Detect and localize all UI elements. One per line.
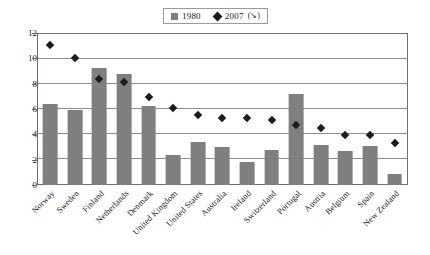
x-axis-label-slot: Australia — [210, 186, 235, 254]
bar-1980 — [215, 147, 230, 185]
bar-1980 — [68, 110, 83, 186]
x-axis-label-slot: Switzerland — [259, 186, 284, 254]
bar-1980 — [92, 68, 107, 185]
legend-entry-1980: 1980 — [171, 12, 201, 21]
chart-legend: 1980 2007 (↘) — [163, 8, 268, 24]
x-axis-label-slot: Norway — [38, 186, 63, 254]
legend-diamond-marker-icon — [212, 11, 222, 21]
legend-label-1980: 1980 — [182, 12, 201, 21]
x-axis-label-slot: New Zealand — [382, 186, 407, 254]
bar-1980 — [338, 151, 353, 185]
chart-column — [38, 34, 63, 185]
chart-column — [63, 34, 88, 185]
x-axis-label-slot: Portugal — [284, 186, 309, 254]
legend-suffix-2007: (↘) — [248, 12, 260, 20]
marker-2007 — [366, 130, 374, 138]
chart-column — [333, 34, 358, 185]
bar-1980 — [240, 162, 255, 185]
chart-column — [210, 34, 235, 185]
chart-column — [358, 34, 383, 185]
chart-column — [136, 34, 161, 185]
marker-2007 — [341, 130, 349, 138]
chart-column — [161, 34, 186, 185]
chart-column — [382, 34, 407, 185]
marker-2007 — [218, 114, 226, 122]
bar-1980 — [166, 155, 181, 185]
x-axis-tick-label: Spain — [356, 189, 376, 209]
y-axis: 024681012 — [0, 33, 37, 186]
bar-1980 — [313, 145, 328, 185]
x-axis-labels: NorwaySwedenFinlandNetherlandsDenmarkUni… — [38, 186, 407, 254]
marker-2007 — [317, 124, 325, 132]
bar-1980 — [141, 106, 156, 185]
x-axis-label-slot: Netherlands — [112, 186, 137, 254]
x-axis-tick-label: Norway — [31, 189, 57, 215]
marker-2007 — [46, 41, 54, 49]
marker-2007 — [71, 54, 79, 62]
chart-column — [259, 34, 284, 185]
bar-1980 — [289, 94, 304, 185]
legend-square-marker-icon — [171, 13, 178, 20]
marker-2007 — [194, 110, 202, 118]
x-axis-label-slot: United States — [186, 186, 211, 254]
bar-1980 — [117, 74, 132, 185]
bar-1980 — [190, 142, 205, 185]
chart-column — [309, 34, 334, 185]
x-axis-label-slot: Austria — [309, 186, 334, 254]
chart-column — [186, 34, 211, 185]
legend-entry-2007: 2007 (↘) — [214, 12, 260, 21]
bar-1980 — [363, 146, 378, 185]
chart-column — [112, 34, 137, 185]
chart-column — [87, 34, 112, 185]
x-axis-label-slot: Belgium — [333, 186, 358, 254]
marker-2007 — [267, 115, 275, 123]
legend-label-2007: 2007 — [225, 12, 244, 21]
chart-container: 1980 2007 (↘) 024681012 NorwaySwedenFinl… — [0, 0, 430, 255]
x-axis-label-slot: Sweden — [63, 186, 88, 254]
bar-1980 — [387, 174, 402, 185]
bar-1980 — [264, 150, 279, 185]
marker-2007 — [169, 104, 177, 112]
marker-2007 — [390, 139, 398, 147]
y-axis-tick-mark — [32, 185, 37, 186]
data-columns — [38, 34, 407, 185]
marker-2007 — [243, 114, 251, 122]
chart-column — [284, 34, 309, 185]
marker-2007 — [144, 93, 152, 101]
bar-1980 — [43, 104, 58, 185]
chart-column — [235, 34, 260, 185]
